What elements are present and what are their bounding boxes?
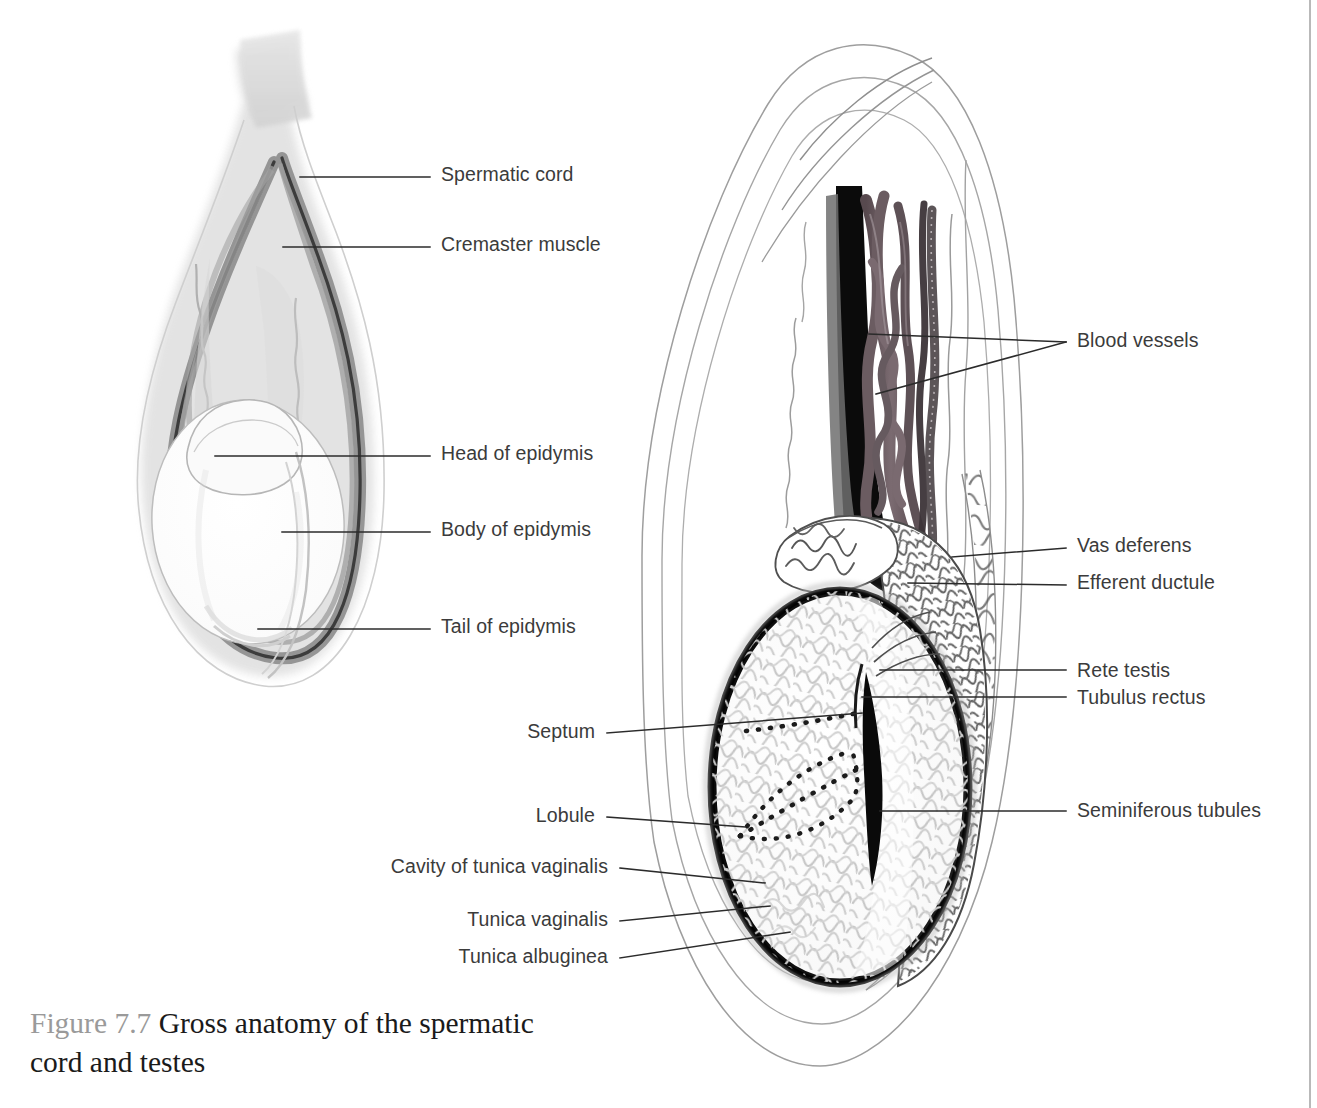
label-tubulus-rectus: Tubulus rectus: [1077, 688, 1206, 708]
label-tunica-vaginalis: Tunica vaginalis: [0, 910, 608, 930]
figure-plate: Spermatic cordCremaster muscleHead of ep…: [0, 0, 1317, 1108]
figure-title-line2: cord and testes: [30, 1046, 205, 1078]
left-figure-scrotum: [137, 30, 384, 687]
label-lobule: Lobule: [0, 806, 595, 826]
label-vas-deferens: Vas deferens: [1077, 536, 1192, 556]
figure-title: Gross anatomy of the spermatic: [159, 1007, 534, 1039]
label-seminiferous-tubules: Seminiferous tubules: [1077, 801, 1261, 821]
label-body-of-epidymis: Body of epidymis: [441, 520, 591, 540]
label-tail-of-epidymis: Tail of epidymis: [441, 617, 576, 637]
label-blood-vessels: Blood vessels: [1077, 331, 1199, 351]
figure-caption: Figure 7.7 Gross anatomy of the spermati…: [30, 1004, 730, 1082]
label-efferent-ductule: Efferent ductule: [1077, 573, 1215, 593]
page-margin-rule: [1309, 0, 1311, 1108]
label-head-of-epidymis: Head of epidymis: [441, 444, 593, 464]
figure-number: Figure 7.7: [30, 1007, 151, 1039]
label-rete-testis: Rete testis: [1077, 661, 1170, 681]
label-spermatic-cord: Spermatic cord: [441, 165, 574, 185]
label-septum: Septum: [0, 722, 595, 742]
label-cavity-of-tunica-vaginalis: Cavity of tunica vaginalis: [0, 857, 608, 877]
label-cremaster-muscle: Cremaster muscle: [441, 235, 601, 255]
label-tunica-albuginea: Tunica albuginea: [0, 947, 608, 967]
